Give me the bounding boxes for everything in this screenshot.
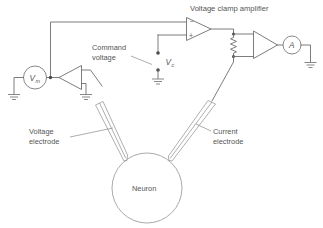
current-monitor-amplifier xyxy=(254,31,284,59)
current-electrode-outer-left xyxy=(169,101,209,157)
command-voltage-label-line2: voltage xyxy=(92,53,116,62)
command-voltage-switch xyxy=(152,51,164,84)
current-electrode-label-line2: electrode xyxy=(213,137,243,146)
voltage-clamp-amplifier: − + xyxy=(158,18,234,53)
ammeter-output-wire xyxy=(301,45,311,62)
vm-meter-ground-wire xyxy=(14,78,24,95)
voltage-follower-amplifier xyxy=(59,66,102,100)
noninverting-input-sign: + xyxy=(189,32,193,39)
voltage-electrode-outer-right xyxy=(103,102,128,156)
voltage-electrode-cap xyxy=(96,102,104,106)
command-voltage-leader-line xyxy=(131,56,152,65)
voltage-electrode-annotation: Voltage electrode xyxy=(29,127,113,146)
resistor-zigzag xyxy=(231,36,237,57)
command-switch-upper-contact xyxy=(156,51,160,55)
circuit-canvas: − + Voltage clamp amplifier A xyxy=(0,0,323,228)
follower-ground-wire xyxy=(82,84,87,95)
command-voltage-symbol: V c xyxy=(166,58,175,68)
current-amp-triangle xyxy=(254,31,278,59)
neuron-soma: Neuron xyxy=(112,153,182,223)
follower-triangle xyxy=(59,66,82,90)
current-electrode-wire xyxy=(212,57,234,102)
voltage-clamp-amplifier-label: Voltage clamp amplifier xyxy=(190,4,269,13)
current-electrode-leader-line xyxy=(196,124,211,131)
voltage-electrode-label-line2: electrode xyxy=(29,137,59,146)
command-voltage-annotation: Command voltage xyxy=(92,43,152,65)
voltage-electrode-leader-line xyxy=(70,128,113,137)
voltage-clamp-diagram: − + Voltage clamp amplifier A xyxy=(0,0,323,228)
voltage-electrode xyxy=(96,102,128,162)
ammeter: A xyxy=(283,36,311,62)
voltage-electrode-outer-left xyxy=(96,105,125,161)
voltage-electrode-inner xyxy=(100,103,126,158)
voltage-electrode-label-line1: Voltage xyxy=(29,127,54,136)
membrane-potential-meter: V m xyxy=(8,66,59,100)
current-electrode-annotation: Current electrode xyxy=(196,124,243,146)
inverting-input-sign: − xyxy=(190,18,194,25)
ammeter-ground xyxy=(305,63,317,68)
ammeter-label: A xyxy=(288,41,295,50)
neuron-label: Neuron xyxy=(132,184,156,193)
vm-junction-node xyxy=(49,76,52,79)
current-electrode-inner xyxy=(170,102,212,158)
command-voltage-label-line1: Command xyxy=(92,43,126,52)
feedback-resistor xyxy=(231,33,254,59)
current-electrode-outer-right xyxy=(172,104,216,161)
command-voltage-symbol-sub: c xyxy=(172,62,175,68)
current-electrode-label-line1: Current xyxy=(213,127,238,136)
vm-symbol-sub: m xyxy=(36,78,41,84)
op-amp-output-wire xyxy=(211,29,234,34)
